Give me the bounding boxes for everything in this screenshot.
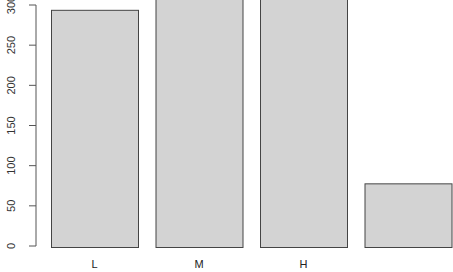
y-tick-label: 250	[5, 36, 17, 54]
bar-l	[52, 10, 139, 247]
y-tick-label: 0	[5, 243, 17, 249]
y-tick-label: 300	[5, 0, 17, 14]
bars	[52, 0, 453, 248]
y-tick-label: 200	[5, 76, 17, 94]
x-category-label: H	[300, 258, 308, 270]
y-tick-label: 50	[5, 200, 17, 212]
bar-chart: 050100150200250300 LMH	[0, 0, 453, 272]
y-tick-label: 100	[5, 156, 17, 174]
x-category-label: L	[91, 258, 97, 270]
y-tick-label: 150	[5, 116, 17, 134]
x-category-label: M	[194, 258, 203, 270]
x-axis-labels: LMH	[91, 258, 307, 270]
bar-m	[156, 0, 243, 248]
y-axis: 050100150200250300	[5, 0, 36, 249]
bar-h	[261, 0, 348, 247]
bar-unlabeled-4	[365, 184, 452, 248]
